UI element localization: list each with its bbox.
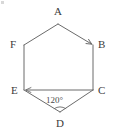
vertex-label-C: C [98, 85, 105, 96]
angle-label-D: 120° [46, 96, 63, 105]
edge-F-A [24, 24, 58, 45]
geometry-figure: A B C D E F 120° [0, 0, 115, 134]
edge-A-B [58, 24, 92, 44]
vertex-label-F: F [10, 39, 16, 50]
figure-svg [0, 0, 115, 134]
vertex-label-E: E [11, 85, 18, 96]
vertex-label-D: D [56, 118, 64, 129]
vertex-label-A: A [54, 6, 62, 17]
vertex-label-B: B [98, 39, 105, 50]
angle-arc-D [54, 107, 66, 109]
edge-C-D [60, 90, 93, 112]
